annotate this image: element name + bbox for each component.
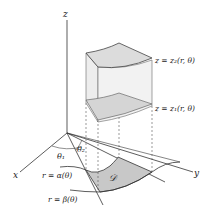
polar-integration-diagram: z x y z = z₂(r, θ) z = z₁(r, θ) r = α(θ)… (0, 0, 213, 213)
alpha-curve (60, 166, 86, 170)
region-d (86, 157, 152, 192)
y-axis-label: y (193, 168, 200, 178)
lower-surface-label: z = z₁(r, θ) (154, 104, 195, 113)
outer-curve-label: r = β(θ) (48, 195, 77, 204)
z-axis-label: z (62, 9, 68, 19)
x-axis-label: x (13, 170, 18, 180)
inner-curve-label: r = α(θ) (42, 171, 72, 180)
theta1-label: θ₁ (57, 152, 65, 161)
theta2-label: θ₂ (77, 145, 85, 154)
upper-surface-label: z = z₂(r, θ) (154, 56, 195, 65)
